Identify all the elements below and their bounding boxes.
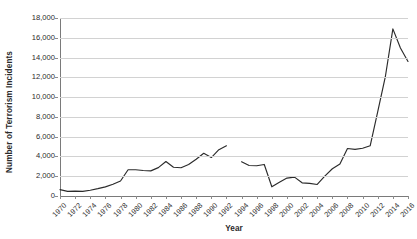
x-tick-mark [121, 196, 122, 199]
x-tick-mark [151, 196, 152, 199]
x-tick-mark [257, 196, 258, 199]
y-tick-label: 14,000 [32, 54, 55, 62]
y-tick-label: 16,000 [32, 34, 55, 42]
x-tick-mark [181, 196, 182, 199]
gridline [60, 117, 408, 118]
series-segment [242, 29, 408, 187]
y-tick-mark [55, 38, 58, 39]
x-tick-mark [302, 196, 303, 199]
y-tick-mark [55, 196, 58, 197]
gridline [60, 18, 408, 19]
terrorism-incidents-line-chart: Number of Terrorism Incidents 02,0004,00… [0, 0, 417, 239]
x-tick-mark [196, 196, 197, 199]
x-tick-mark [60, 196, 61, 199]
x-tick-mark [317, 196, 318, 199]
y-tick-label: 6,000 [36, 133, 55, 141]
y-tick-label: 2,000 [36, 172, 55, 180]
y-tick-mark [55, 137, 58, 138]
x-tick-mark [408, 196, 409, 199]
x-tick-mark [90, 196, 91, 199]
y-axis-tick-labels: 02,0004,0006,0008,00010,00012,00014,0001… [14, 0, 58, 239]
x-tick-mark [75, 196, 76, 199]
y-tick-mark [55, 156, 58, 157]
x-tick-mark [363, 196, 364, 199]
x-tick-mark [287, 196, 288, 199]
x-tick-mark [378, 196, 379, 199]
data-series-line [60, 18, 408, 196]
gridline [60, 38, 408, 39]
gridline [60, 156, 408, 157]
y-tick-mark [55, 18, 58, 19]
y-tick-label: 4,000 [36, 152, 55, 160]
x-tick-mark [332, 196, 333, 199]
plot-area [60, 18, 408, 196]
y-tick-label: 10,000 [32, 93, 55, 101]
x-tick-mark [242, 196, 243, 199]
x-tick-mark [105, 196, 106, 199]
x-tick-mark [226, 196, 227, 199]
gridline [60, 77, 408, 78]
gridline [60, 137, 408, 138]
gridline [60, 176, 408, 177]
x-tick-mark [272, 196, 273, 199]
x-tick-mark [393, 196, 394, 199]
series-segment [60, 146, 226, 191]
x-tick-mark [211, 196, 212, 199]
y-tick-label: 18,000 [32, 14, 55, 22]
x-axis-title: Year [60, 224, 408, 233]
x-tick-mark [166, 196, 167, 199]
y-tick-mark [55, 77, 58, 78]
gridline [60, 97, 408, 98]
x-tick-mark [136, 196, 137, 199]
y-tick-label: 12,000 [32, 73, 55, 81]
y-tick-mark [55, 117, 58, 118]
y-tick-mark [55, 97, 58, 98]
x-tick-mark [347, 196, 348, 199]
y-tick-mark [55, 176, 58, 177]
gridline [60, 58, 408, 59]
y-tick-mark [55, 58, 58, 59]
y-tick-label: 8,000 [36, 113, 55, 121]
